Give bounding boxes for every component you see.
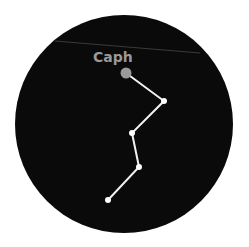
star-map: Caph (0, 0, 249, 247)
star-label-caph: Caph (93, 49, 133, 65)
star-icon (129, 130, 135, 136)
star-icon (105, 197, 111, 203)
star-icon (161, 98, 167, 104)
star-icon (136, 164, 142, 170)
sky-disc (15, 15, 233, 233)
caph-star-icon[interactable] (121, 68, 132, 79)
